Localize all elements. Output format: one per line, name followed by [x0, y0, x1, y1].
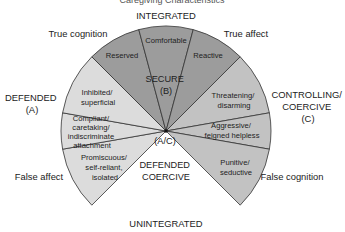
label-threatening: Threatening/ disarming [212, 91, 257, 110]
axis-bottom-label: UNINTEGRATED [129, 218, 202, 229]
label-defended-coercive: DEFENDED COERCIVE [139, 160, 192, 182]
label-defended-a: DEFENDED (A) [5, 92, 59, 115]
label-aggressive: Aggressive/ feigned helpless [205, 121, 260, 140]
label-controlling-coercive: CONTROLLING/ COERCIVE (C) [272, 89, 345, 124]
attachment-fan-diagram: Caregiving Characteristics Promiscuous/ … [0, 0, 345, 232]
label-reserved: Reserved [106, 51, 139, 60]
corner-true-affect: True affect [224, 28, 269, 39]
label-punitive: Punitive/ seductive [220, 158, 252, 177]
axis-top-label: INTEGRATED [136, 10, 196, 21]
corner-true-cognition: True cognition [48, 28, 107, 39]
label-inhibited: Inhibited/ superficial [81, 88, 115, 107]
label-center-ac: (A/C) [154, 136, 175, 146]
label-reactive: Reactive [193, 51, 223, 60]
diagram-canvas: Caregiving Characteristics Promiscuous/ … [0, 0, 345, 232]
label-comfortable: Comfortable [145, 36, 186, 45]
label-compliant: Compliant/ caretaking/ indiscriminate at… [68, 114, 117, 150]
diagram-title-cut: Caregiving Characteristics [119, 0, 225, 5]
corner-false-cognition: False cognition [260, 171, 323, 182]
center-point [164, 129, 168, 133]
corner-false-affect: False affect [15, 171, 64, 182]
